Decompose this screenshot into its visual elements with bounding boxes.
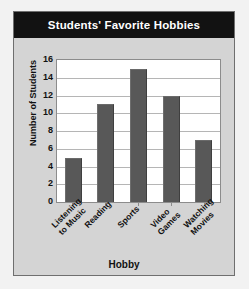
y-tick-label: 0 bbox=[48, 197, 53, 206]
x-label-slot: Listeningto Music bbox=[56, 206, 89, 261]
bar-series bbox=[57, 60, 220, 202]
chart-panel: Students' Favorite Hobbies Number of Stu… bbox=[13, 11, 235, 276]
chart-screenshot: Students' Favorite Hobbies Number of Stu… bbox=[0, 0, 249, 289]
x-label-slot: Sports bbox=[122, 206, 155, 261]
y-axis-tick-labels: 0246810121416 bbox=[36, 59, 53, 201]
x-axis-tick-labels: Listeningto MusicReadingSportsVideoGames… bbox=[56, 206, 221, 261]
y-tick-label: 14 bbox=[43, 72, 53, 81]
y-tick-label: 10 bbox=[43, 108, 53, 117]
chart-title: Students' Favorite Hobbies bbox=[48, 19, 200, 31]
x-label-slot: VideoGames bbox=[155, 206, 188, 261]
plot-area bbox=[56, 59, 221, 203]
y-tick-label: 16 bbox=[43, 55, 53, 64]
y-tick-label: 6 bbox=[48, 143, 53, 152]
y-tick-label: 12 bbox=[43, 90, 53, 99]
x-label-slot: WatchingMovies bbox=[188, 206, 221, 261]
bar-slot bbox=[57, 60, 90, 202]
x-label-slot: Reading bbox=[89, 206, 122, 261]
y-tick-label: 4 bbox=[48, 161, 53, 170]
chart-title-bar: Students' Favorite Hobbies bbox=[14, 12, 234, 38]
y-tick-label: 2 bbox=[48, 179, 53, 188]
y-tick-label: 8 bbox=[48, 126, 53, 135]
chart-body: Number of Students 0246810121416 Listeni… bbox=[14, 38, 234, 275]
x-axis-title: Hobby bbox=[14, 259, 234, 270]
bar[interactable] bbox=[130, 69, 147, 202]
